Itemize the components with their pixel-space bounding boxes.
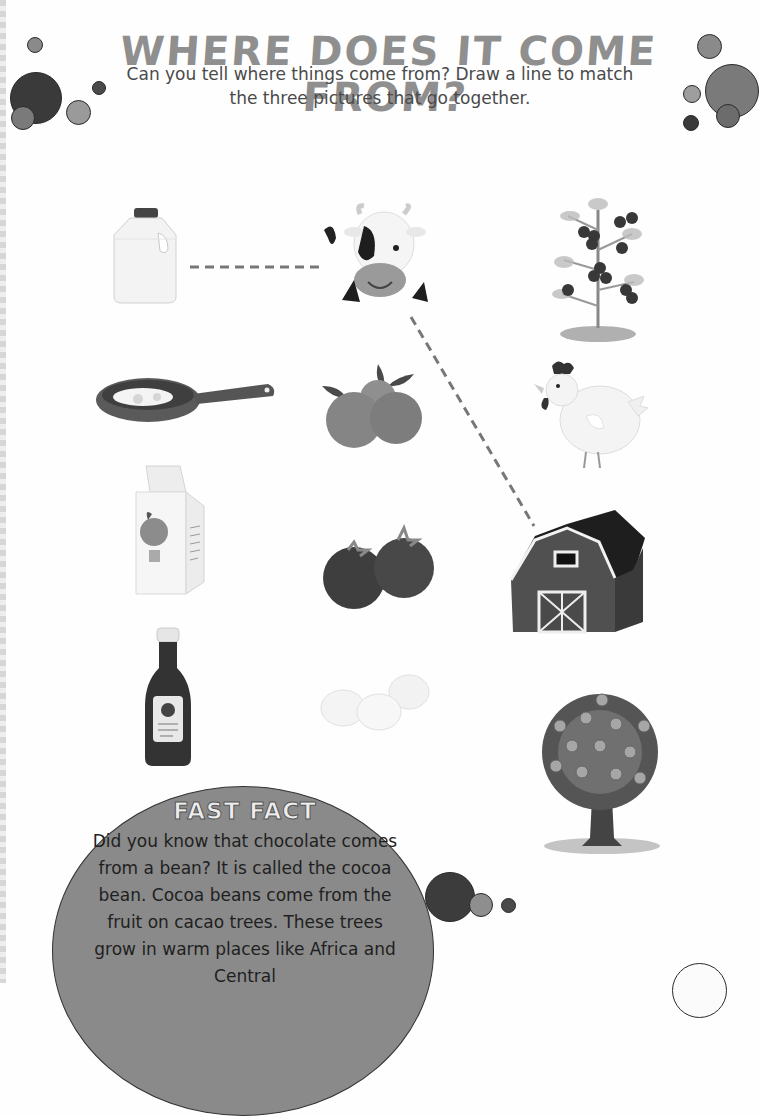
milk-jug-picture[interactable] bbox=[108, 205, 183, 305]
bubble-decoration bbox=[425, 872, 475, 922]
chicken-picture[interactable] bbox=[530, 358, 650, 473]
fast-fact-title: FAST FACT bbox=[95, 798, 395, 824]
dash-line-cow-barn bbox=[411, 317, 534, 526]
tomatoes-picture[interactable] bbox=[318, 520, 438, 610]
juice-carton-picture[interactable] bbox=[128, 462, 208, 602]
fast-fact-text: Did you know that chocolate comes from a… bbox=[85, 828, 405, 990]
oranges-picture[interactable] bbox=[314, 354, 424, 454]
eggs-picture[interactable] bbox=[315, 672, 435, 732]
tomato-plant-picture[interactable] bbox=[548, 190, 648, 340]
ketchup-bottle-picture[interactable] bbox=[143, 626, 198, 771]
bubble-decoration bbox=[469, 893, 493, 917]
orange-tree-picture[interactable] bbox=[536, 690, 666, 850]
cow-picture[interactable] bbox=[320, 202, 430, 307]
frying-pan-picture[interactable] bbox=[93, 362, 278, 437]
bubble-decoration bbox=[501, 898, 516, 913]
barn-picture[interactable] bbox=[505, 508, 650, 638]
page-corner-circle bbox=[672, 963, 727, 1018]
